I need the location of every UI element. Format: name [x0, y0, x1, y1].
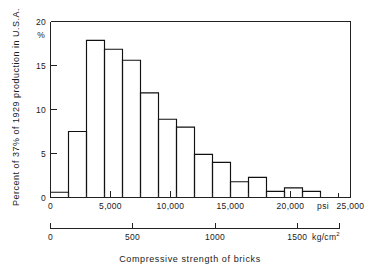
chart-figure: 20 15 10 5 0 % Percent of 37% of 1929 pr… — [0, 0, 376, 271]
x-axis-unit-psi: psi — [317, 201, 329, 211]
x-tick-label-20000: 20,000 — [277, 201, 305, 211]
x-axis-title: Compressive strength of bricks — [119, 254, 261, 264]
y-tick-label-15: 15 — [36, 61, 46, 71]
x-tick-label-15000: 15,000 — [217, 201, 245, 211]
bar-1 — [69, 132, 87, 198]
bar-7 — [177, 127, 195, 197]
secondary-axis-kg: 0 500 1000 1500 kg/cm2 — [48, 223, 340, 243]
bar-14 — [303, 191, 321, 197]
x-tick-label-5000: 5,000 — [99, 201, 122, 211]
y-tick-label-0: 0 — [41, 193, 46, 203]
y-tick-label-20: 20 — [36, 17, 46, 27]
bar-2 — [87, 40, 105, 197]
secondary-axis-unit-label: kg/cm2 — [312, 231, 340, 242]
kg-tick-label-500: 500 — [125, 232, 140, 242]
y-axis-title-group: Percent of 37% of 1929 production in U.S… — [11, 8, 21, 206]
kg-tick-label-0: 0 — [48, 232, 53, 242]
bar-13 — [285, 188, 303, 198]
secondary-axis-unit-base: kg/cm — [312, 232, 336, 242]
y-tick-label-5: 5 — [41, 149, 46, 159]
bar-4 — [123, 60, 141, 197]
x-tick-label-10000: 10,000 — [157, 201, 185, 211]
kg-tick-label-1500: 1500 — [287, 232, 307, 242]
bar-8 — [195, 154, 213, 197]
plot-frame — [51, 22, 351, 198]
histogram-bars — [51, 40, 321, 197]
bar-6 — [159, 119, 177, 197]
x-axis-psi-minor-ticks — [69, 193, 339, 198]
y-axis-unit-label: % — [37, 30, 45, 40]
bar-5 — [141, 93, 159, 198]
x-axis-psi-major-ticks — [111, 191, 291, 198]
y-axis-tick-labels: 20 15 10 5 0 % — [36, 17, 46, 203]
y-tick-label-10: 10 — [36, 105, 46, 115]
secondary-axis-unit-exponent: 2 — [336, 231, 340, 237]
y-axis-ticks — [51, 22, 57, 198]
x-tick-label-0: 0 — [48, 201, 53, 211]
bar-10 — [231, 182, 249, 198]
bar-12 — [267, 191, 285, 197]
x-axis-psi-tick-labels: 0 5,000 10,000 15,000 20,000 25,000 psi — [48, 201, 364, 211]
kg-tick-label-1000: 1000 — [205, 232, 225, 242]
bar-0 — [51, 192, 69, 197]
plot-border — [51, 22, 351, 198]
bar-11 — [249, 177, 267, 197]
x-tick-label-25000: 25,000 — [337, 201, 365, 211]
bar-3 — [105, 49, 123, 197]
chart-svg: 20 15 10 5 0 % Percent of 37% of 1929 pr… — [0, 0, 376, 271]
x-axis-title-group: Compressive strength of bricks — [119, 254, 261, 264]
bar-9 — [213, 162, 231, 197]
y-axis-title: Percent of 37% of 1929 production in U.S… — [11, 8, 21, 206]
